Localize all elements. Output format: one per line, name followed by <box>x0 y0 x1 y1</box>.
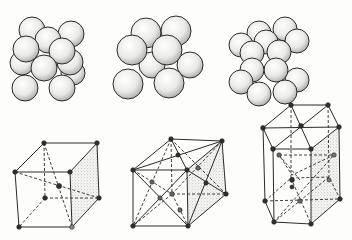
crystal-lattice-figure <box>0 0 352 240</box>
hcp-unit-cell <box>261 103 343 227</box>
fcc-sphere-model <box>113 16 203 99</box>
fcc-unit-cell <box>131 137 229 229</box>
hcp-sphere-model <box>229 17 309 106</box>
bcc-unit-cell <box>13 141 102 230</box>
bcc-sphere-model <box>10 17 85 101</box>
